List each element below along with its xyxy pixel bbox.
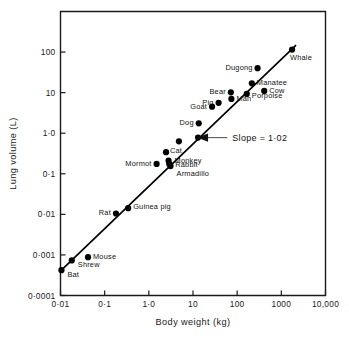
data-point [249,80,255,86]
lung-volume-allometry-chart: 0·010·11·010100100010,000 100101·00·10·0… [0,0,349,340]
data-point-label: Shrew [78,260,100,269]
x-tick-label: 10,000 [312,299,339,309]
x-tick-label: 1000 [272,299,292,309]
data-point [261,88,267,94]
y-tick-label: 0·1 [43,169,56,179]
data-point-label: Bear [209,87,226,96]
data-point [167,163,173,169]
x-tick-label: 1·0 [142,299,155,309]
data-point [254,65,260,71]
x-tick-label: 10 [188,299,198,309]
data-point [113,210,119,216]
data-point-label: Whale [290,53,312,62]
data-point-label: Rat [99,208,111,217]
data-point [69,257,75,263]
x-tick-label: 0·1 [98,299,111,309]
data-point-label: Rabbit [175,160,198,169]
data-point-label: Pig [202,98,213,107]
y-tick-label: 100 [41,47,56,57]
y-tick-label: 10 [46,88,56,98]
y-tick-label: 0·001 [33,250,56,260]
data-point [58,267,64,273]
data-point [196,120,202,126]
data-point-label: Armadillo [177,169,210,178]
slope-annotation-label: Slope = 1·02 [232,133,287,143]
data-point [154,161,160,167]
x-axis-ticks: 0·010·11·010100100010,000 [52,291,340,309]
y-tick-label: 1·0 [43,128,56,138]
data-point-label: Cow [269,86,285,95]
data-points-group: BatShrewMouseRatGuinea pigMormotCatMonke… [58,47,312,280]
plot-canvas: 0·010·11·010100100010,000 100101·00·10·0… [0,0,349,340]
data-point [163,149,169,155]
data-point-label: Bat [67,270,79,279]
y-tick-label: 0·01 [38,209,56,219]
annotations-group: Slope = 1·02 [197,133,287,143]
y-tick-label: 0·0001 [28,291,56,301]
data-point [85,254,91,260]
y-axis-title: Lung volume (L) [8,117,18,189]
data-point [125,205,131,211]
data-point [216,100,222,106]
data-point [228,96,234,102]
x-tick-label: 100 [230,299,245,309]
data-point [176,138,182,144]
data-point [244,91,250,97]
data-point [228,89,234,95]
data-point-label: Guinea pig [133,202,171,211]
data-point-label: Dog [180,118,194,127]
data-point-label: Mormot [125,159,151,168]
data-point-label: Mouse [93,252,116,261]
data-point-label: Dugong [225,63,252,72]
x-axis-title: Body weight (kg) [156,317,231,327]
data-point-label: Cat [170,146,182,155]
